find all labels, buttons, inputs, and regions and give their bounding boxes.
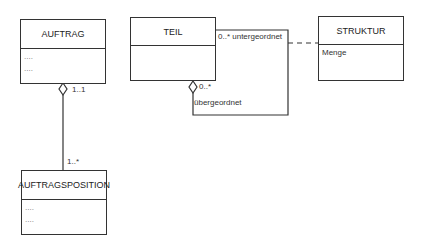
aggregation-diamond-auftrag [59, 83, 67, 95]
attribute: .... [24, 51, 102, 63]
class-auftragsposition-attributes: .... .... [22, 199, 106, 234]
attribute: Menge [322, 47, 400, 59]
attribute: .... [25, 202, 103, 214]
class-struktur[interactable]: STRUKTUR Menge [318, 16, 404, 81]
attribute: .... [25, 214, 103, 226]
multiplicity-uebergeordnet: 0..* [199, 82, 211, 91]
class-auftrag-name: AUFTRAG [21, 20, 105, 49]
class-auftragsposition-name: AUFTRAGSPOSITION [22, 171, 106, 200]
role-untergeordnet: 0..* untergeordnet [218, 32, 282, 41]
class-auftrag-attributes: .... .... [21, 48, 105, 83]
attribute: .... [24, 63, 102, 75]
aggregation-diamond-teil [189, 81, 197, 93]
class-teil-name: TEIL [131, 18, 215, 46]
class-auftragsposition[interactable]: AUFTRAGSPOSITION .... .... [21, 170, 107, 235]
multiplicity-auftragsposition: 1..* [67, 157, 79, 166]
class-teil-attributes [131, 45, 215, 80]
role-uebergeordnet: übergeordnet [194, 98, 242, 107]
class-auftrag[interactable]: AUFTRAG .... .... [20, 19, 106, 84]
class-teil[interactable]: TEIL [130, 17, 216, 81]
class-struktur-attributes: Menge [319, 44, 403, 80]
multiplicity-auftrag: 1..1 [72, 85, 85, 94]
class-struktur-name: STRUKTUR [319, 17, 403, 45]
